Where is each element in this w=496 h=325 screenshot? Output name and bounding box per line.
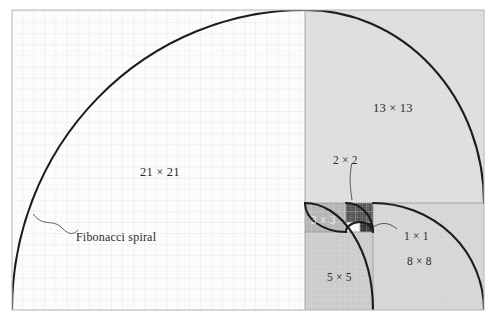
label-square-3: 3 × 3 — [311, 215, 336, 227]
spiral-diagram-svg — [0, 0, 496, 325]
label-square-21: 21 × 21 — [140, 166, 180, 179]
label-square-8: 8 × 8 — [407, 256, 432, 268]
label-fibonacci-spiral-caption: Fibonacci spiral — [76, 231, 156, 243]
label-square-5: 5 × 5 — [327, 272, 352, 284]
label-square-2: 2 × 2 — [333, 155, 358, 167]
label-square-13: 13 × 13 — [373, 102, 413, 115]
fibonacci-spiral-figure: 21 × 21 13 × 13 8 × 8 5 × 5 3 × 3 2 × 2 … — [0, 0, 496, 325]
label-square-1: 1 × 1 — [404, 231, 429, 243]
